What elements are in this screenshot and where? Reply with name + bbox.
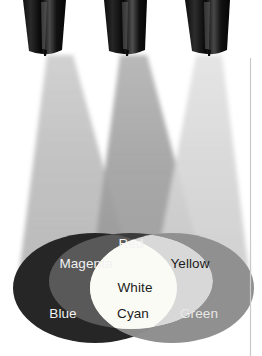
right-lamp <box>185 0 230 56</box>
label-blue: Blue <box>49 306 76 321</box>
left-lamp <box>23 0 66 56</box>
label-red: Red <box>118 236 143 251</box>
label-white: White <box>117 280 152 295</box>
label-cyan: Cyan <box>117 306 149 321</box>
label-yellow: Yellow <box>170 256 209 271</box>
label-green: Green <box>180 306 218 321</box>
additive-color-mixing-figure: Red Magenta Yellow White Blue Cyan Green <box>0 0 262 356</box>
color-mixing-illustration: Red Magenta Yellow White Blue Cyan Green <box>0 0 262 356</box>
center-lamp <box>104 0 147 56</box>
label-magenta: Magenta <box>59 256 113 271</box>
spotlight-lamps <box>23 0 230 56</box>
